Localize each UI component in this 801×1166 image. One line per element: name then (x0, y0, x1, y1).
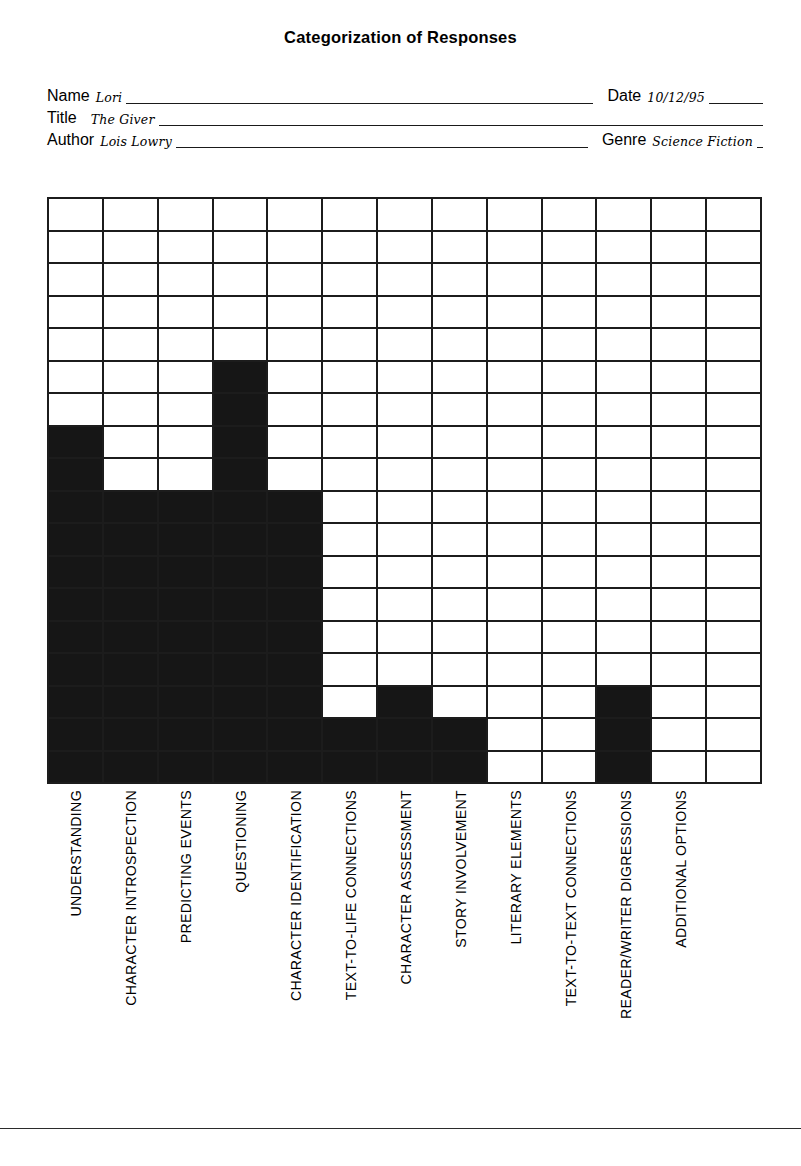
grid-cell-empty[interactable] (707, 394, 762, 427)
grid-cell-empty[interactable] (378, 492, 433, 525)
grid-cell-filled[interactable] (214, 427, 269, 460)
grid-cell-filled[interactable] (214, 394, 269, 427)
grid-cell-filled[interactable] (378, 752, 433, 785)
grid-cell-empty[interactable] (433, 394, 488, 427)
grid-cell-empty[interactable] (323, 362, 378, 395)
grid-cell-empty[interactable] (104, 199, 159, 232)
grid-cell-empty[interactable] (597, 394, 652, 427)
grid-cell-empty[interactable] (378, 459, 433, 492)
grid-cell-empty[interactable] (543, 232, 598, 265)
grid-cell-empty[interactable] (49, 264, 104, 297)
grid-cell-filled[interactable] (49, 557, 104, 590)
grid-cell-filled[interactable] (268, 524, 323, 557)
grid-cell-empty[interactable] (652, 719, 707, 752)
grid-cell-empty[interactable] (268, 394, 323, 427)
grid-cell-empty[interactable] (597, 492, 652, 525)
grid-cell-empty[interactable] (104, 394, 159, 427)
title-value[interactable]: The Giver (77, 112, 159, 128)
grid-cell-empty[interactable] (707, 264, 762, 297)
grid-cell-filled[interactable] (159, 752, 214, 785)
grid-cell-empty[interactable] (488, 199, 543, 232)
grid-cell-empty[interactable] (488, 362, 543, 395)
grid-cell-filled[interactable] (268, 492, 323, 525)
grid-cell-filled[interactable] (104, 622, 159, 655)
grid-cell-empty[interactable] (49, 362, 104, 395)
grid-cell-filled[interactable] (323, 719, 378, 752)
grid-cell-empty[interactable] (652, 622, 707, 655)
grid-cell-empty[interactable] (707, 427, 762, 460)
grid-cell-empty[interactable] (378, 654, 433, 687)
grid-cell-filled[interactable] (214, 687, 269, 720)
grid-cell-filled[interactable] (159, 719, 214, 752)
grid-cell-empty[interactable] (159, 264, 214, 297)
grid-cell-empty[interactable] (543, 394, 598, 427)
grid-cell-empty[interactable] (543, 687, 598, 720)
genre-value[interactable]: Science Fiction (646, 134, 757, 150)
grid-cell-empty[interactable] (433, 622, 488, 655)
grid-cell-empty[interactable] (597, 232, 652, 265)
grid-cell-empty[interactable] (159, 297, 214, 330)
grid-cell-empty[interactable] (323, 459, 378, 492)
grid-cell-filled[interactable] (378, 719, 433, 752)
grid-cell-filled[interactable] (597, 687, 652, 720)
grid-cell-empty[interactable] (707, 557, 762, 590)
grid-cell-filled[interactable] (597, 752, 652, 785)
grid-cell-empty[interactable] (597, 297, 652, 330)
grid-cell-empty[interactable] (323, 329, 378, 362)
grid-cell-empty[interactable] (707, 492, 762, 525)
grid-cell-empty[interactable] (433, 329, 488, 362)
grid-cell-empty[interactable] (707, 622, 762, 655)
grid-cell-filled[interactable] (49, 654, 104, 687)
grid-cell-empty[interactable] (597, 622, 652, 655)
grid-cell-empty[interactable] (652, 199, 707, 232)
grid-cell-empty[interactable] (652, 232, 707, 265)
grid-cell-empty[interactable] (323, 557, 378, 590)
grid-cell-empty[interactable] (488, 557, 543, 590)
grid-cell-empty[interactable] (543, 622, 598, 655)
grid-cell-empty[interactable] (488, 622, 543, 655)
grid-cell-empty[interactable] (268, 232, 323, 265)
grid-cell-empty[interactable] (597, 459, 652, 492)
grid-cell-filled[interactable] (214, 752, 269, 785)
grid-cell-filled[interactable] (104, 557, 159, 590)
grid-cell-empty[interactable] (323, 622, 378, 655)
grid-cell-filled[interactable] (49, 752, 104, 785)
grid-cell-filled[interactable] (214, 654, 269, 687)
grid-cell-empty[interactable] (159, 199, 214, 232)
grid-cell-filled[interactable] (268, 752, 323, 785)
grid-cell-empty[interactable] (104, 329, 159, 362)
grid-cell-empty[interactable] (378, 264, 433, 297)
grid-cell-empty[interactable] (707, 362, 762, 395)
grid-cell-empty[interactable] (652, 264, 707, 297)
grid-cell-empty[interactable] (652, 459, 707, 492)
grid-cell-empty[interactable] (488, 427, 543, 460)
grid-cell-empty[interactable] (652, 329, 707, 362)
grid-cell-empty[interactable] (597, 362, 652, 395)
grid-cell-empty[interactable] (323, 589, 378, 622)
grid-cell-filled[interactable] (159, 589, 214, 622)
grid-cell-empty[interactable] (378, 557, 433, 590)
grid-cell-empty[interactable] (652, 654, 707, 687)
grid-cell-empty[interactable] (104, 362, 159, 395)
grid-cell-filled[interactable] (268, 557, 323, 590)
grid-cell-empty[interactable] (159, 427, 214, 460)
grid-cell-filled[interactable] (214, 524, 269, 557)
grid-cell-empty[interactable] (104, 232, 159, 265)
grid-cell-empty[interactable] (543, 264, 598, 297)
grid-cell-filled[interactable] (214, 589, 269, 622)
grid-cell-empty[interactable] (433, 492, 488, 525)
grid-cell-empty[interactable] (488, 654, 543, 687)
grid-cell-empty[interactable] (323, 524, 378, 557)
grid-cell-filled[interactable] (104, 524, 159, 557)
grid-cell-filled[interactable] (159, 687, 214, 720)
grid-cell-empty[interactable] (323, 297, 378, 330)
grid-cell-filled[interactable] (49, 589, 104, 622)
grid-cell-empty[interactable] (597, 589, 652, 622)
grid-cell-empty[interactable] (488, 719, 543, 752)
grid-cell-empty[interactable] (323, 654, 378, 687)
grid-cell-empty[interactable] (49, 329, 104, 362)
grid-cell-empty[interactable] (652, 752, 707, 785)
grid-cell-filled[interactable] (49, 492, 104, 525)
grid-cell-empty[interactable] (707, 654, 762, 687)
grid-cell-filled[interactable] (49, 427, 104, 460)
